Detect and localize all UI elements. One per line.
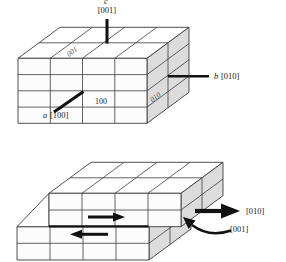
a-axis-letter: a: [43, 110, 47, 120]
slip-plane-label: [001]: [230, 224, 249, 234]
crystal-slip-figure: c [001] b [010] a [100] 100 001 010: [0, 0, 286, 262]
top-diagram: c [001] b [010] a [100] 100 001 010: [18, 0, 240, 123]
b-axis-label: [010]: [221, 71, 240, 81]
slip-direction-label: [010]: [246, 206, 265, 216]
bottom-diagram: [010] [001]: [17, 162, 265, 260]
exposed-slip-plane-wedge: [17, 193, 49, 226]
a-axis-label: [100]: [50, 110, 69, 120]
figure-canvas: c [001] b [010] a [100] 100 001 010: [0, 0, 286, 262]
b-axis-letter: b: [214, 71, 218, 81]
c-axis-label: [001]: [98, 5, 117, 15]
upper-block: [49, 162, 223, 226]
slip-plane-arrow: [183, 217, 231, 233]
front-plane-label: 100: [95, 97, 107, 106]
